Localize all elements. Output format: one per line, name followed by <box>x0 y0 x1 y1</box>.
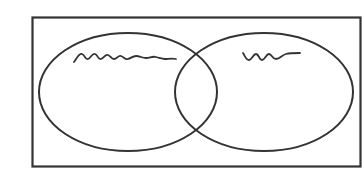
right-set-label-squiggle <box>243 53 300 60</box>
universe-rectangle <box>33 18 361 167</box>
left-set-label-squiggle <box>74 54 176 62</box>
venn-diagram <box>0 0 364 171</box>
left-set-ellipse <box>39 33 217 151</box>
right-set-ellipse <box>175 33 353 151</box>
